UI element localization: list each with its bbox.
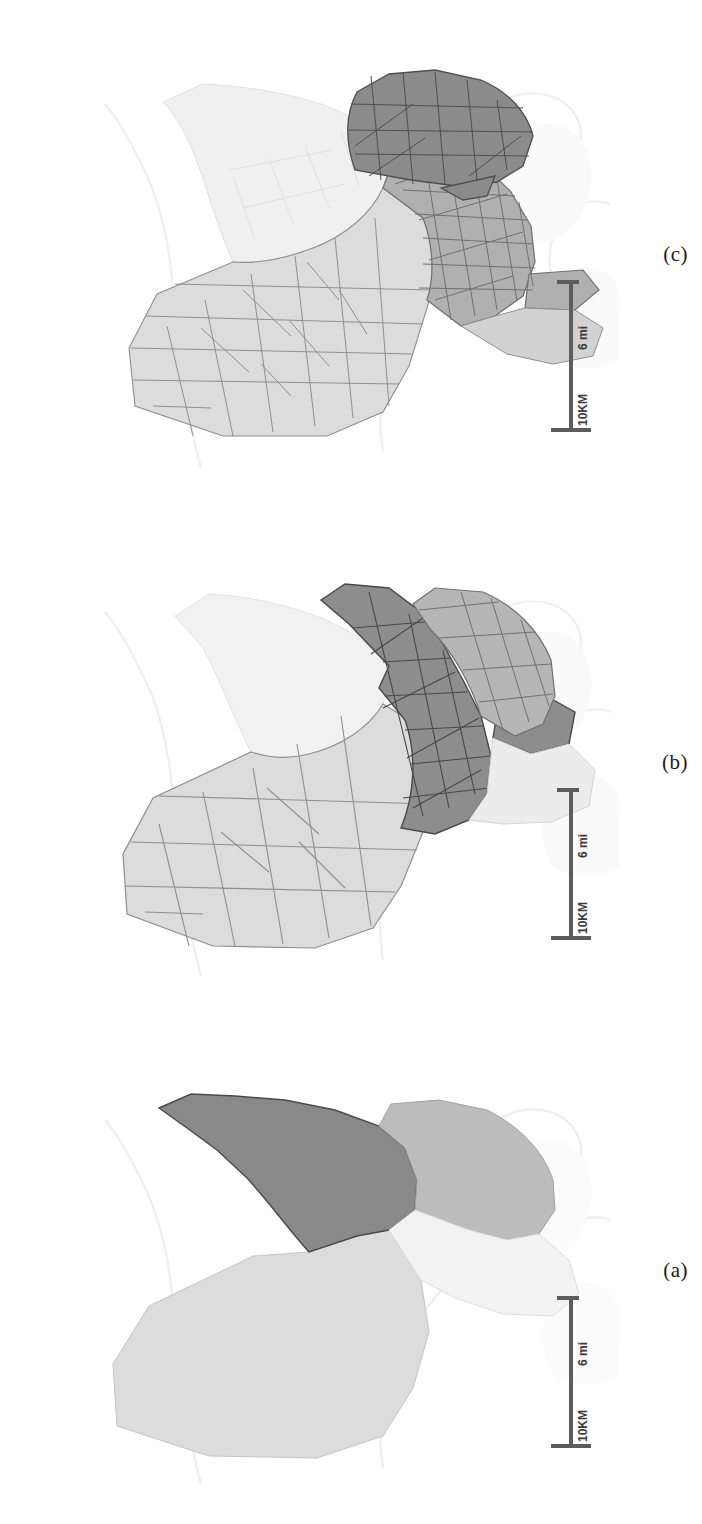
scalebar-tick-start: [551, 428, 591, 432]
panel-a: 10KM 6 mi (a): [0, 1016, 702, 1524]
panel-c-map: [83, 36, 619, 476]
panel-a-rotated-content: 10KM 6 mi: [71, 1040, 631, 1500]
scalebar-imperial-label: 6 mi: [577, 1342, 589, 1366]
panel-c-scalebar: 10KM 6 mi: [547, 268, 593, 438]
scalebar-tick-start: [551, 1444, 591, 1448]
panel-a-map: [83, 1052, 619, 1492]
panel-b-map: [83, 544, 619, 984]
figure-root: 10KM 6 mi (c): [0, 0, 702, 1524]
scalebar-tick-end: [557, 1296, 579, 1300]
scalebar-line: [569, 1296, 573, 1448]
panel-c-rotated-content: 10KM 6 mi: [71, 24, 631, 484]
scalebar-metric-label: 10KM: [577, 902, 589, 934]
scalebar-tick-end: [557, 788, 579, 792]
scalebar-tick-start: [551, 936, 591, 940]
panel-b: 10KM 6 mi (b): [0, 508, 702, 1016]
panel-b-rotated-content: 10KM 6 mi: [71, 532, 631, 992]
panel-c-map-svg: [83, 36, 619, 476]
scalebar-metric-label: 10KM: [577, 1410, 589, 1442]
panel-a-scalebar: 10KM 6 mi: [547, 1284, 593, 1454]
panel-a-label: (a): [663, 1258, 688, 1283]
scalebar-line: [569, 280, 573, 432]
panel-c-label: (c): [663, 242, 688, 267]
scalebar-imperial-label: 6 mi: [577, 834, 589, 858]
panel-a-map-svg: [83, 1052, 619, 1492]
scalebar-line: [569, 788, 573, 940]
scalebar-imperial-label: 6 mi: [577, 326, 589, 350]
scalebar-metric-label: 10KM: [577, 394, 589, 426]
scalebar-tick-end: [557, 280, 579, 284]
panel-c: 10KM 6 mi (c): [0, 0, 702, 508]
panel-b-label: (b): [662, 750, 688, 775]
panel-b-map-svg: [83, 544, 619, 984]
panel-b-scalebar: 10KM 6 mi: [547, 776, 593, 946]
